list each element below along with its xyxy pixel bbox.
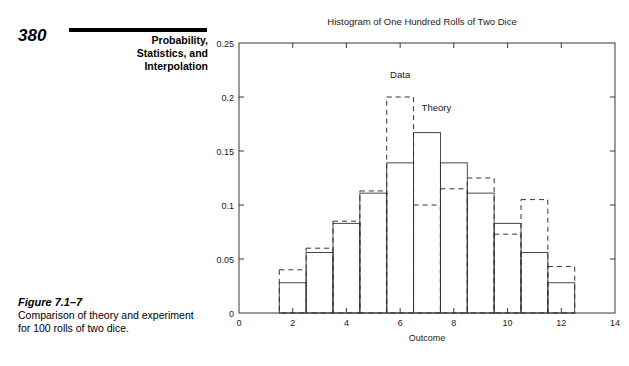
y-tick-label: 0 [229,309,234,319]
chapter-title-line-2: Statistics, and [48,47,208,60]
theory-bar [333,223,360,313]
header-rule-divider [69,28,207,32]
x-tick-label: 4 [344,318,349,328]
data-bar [333,221,360,313]
theory-bar [440,163,467,313]
data-bar [360,191,387,313]
y-tick-label: 0.2 [221,93,234,103]
theory-bar [306,253,333,313]
figure-caption-block: Figure 7.1–7 Comparison of theory and ex… [18,296,204,334]
page-header: 380 Probability, Statistics, and Interpo… [18,12,208,74]
chapter-title: Probability, Statistics, and Interpolati… [48,34,208,73]
data-bar [548,267,575,313]
theory-bar [467,193,494,313]
x-axis-label: Outcome [409,333,446,343]
data-bar [494,234,521,313]
y-tick-label: 0.1 [221,201,234,211]
data-bar [467,178,494,313]
y-tick-label: 0.25 [216,39,234,49]
x-tick-label: 8 [451,318,456,328]
x-tick-label: 2 [290,318,295,328]
annotation-theory: Theory [422,102,452,113]
y-tick-label: 0.05 [216,255,234,265]
figure-label: Figure 7.1–7 [18,296,204,308]
x-tick-label: 6 [398,318,403,328]
chapter-title-line-1: Probability, [48,34,208,47]
x-tick-label: 10 [503,318,513,328]
chart-area: Histogram of One Hundred Rolls of Two Di… [215,0,629,366]
y-tick-label: 0.15 [216,147,234,157]
data-bar [387,97,414,313]
data-bar [521,200,548,313]
theory-bar [414,133,441,313]
theory-bar [360,193,387,313]
plot-frame [239,43,615,313]
figure-caption-text: Comparison of theory and experiment for … [18,309,204,334]
theory-bar [494,223,521,313]
annotation-data: Data [390,69,411,80]
x-tick-label: 0 [236,318,241,328]
data-bar [306,248,333,313]
data-bar [440,189,467,313]
x-tick-label: 12 [556,318,566,328]
theory-bar [521,253,548,313]
data-bar [414,205,441,313]
theory-bar [387,163,414,313]
data-bar [279,270,306,313]
chapter-title-line-3: Interpolation [48,60,208,73]
x-tick-label: 14 [610,318,620,328]
page-number: 380 [18,26,46,46]
page-left-column: 380 Probability, Statistics, and Interpo… [0,0,215,366]
histogram-plot: 0246810121400.050.10.150.20.25OutcomeRel… [215,0,629,366]
